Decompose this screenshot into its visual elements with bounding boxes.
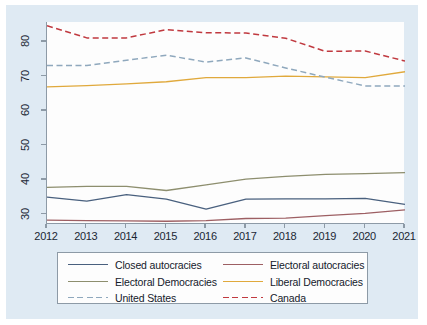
chart-legend: Closed autocraciesElectoral autocraciesE… <box>57 252 368 304</box>
legend-swatch-icon <box>223 293 263 303</box>
x-tick-mark <box>85 224 86 228</box>
legend-line <box>68 281 108 282</box>
chart-figure: 304050607080 201220132014201520162017201… <box>0 0 427 325</box>
y-tick-label: 50 <box>19 134 31 156</box>
series-line-closed-autocracies <box>47 195 405 210</box>
legend-item-closed-autocracies[interactable]: Closed autocracies <box>68 257 202 272</box>
series-line-electoral-democracies <box>47 173 405 191</box>
x-tick-label: 2020 <box>347 230 381 242</box>
y-tick-label: 60 <box>19 99 31 121</box>
x-tick-mark <box>403 224 404 228</box>
x-tick-label: 2015 <box>148 230 182 242</box>
legend-line <box>223 297 263 299</box>
series-line-liberal-democracies <box>47 72 405 87</box>
legend-label: Closed autocracies <box>115 259 202 271</box>
legend-swatch-icon <box>223 260 263 270</box>
x-tick-label: 2014 <box>109 230 143 242</box>
x-tick-label: 2017 <box>228 230 262 242</box>
x-tick-label: 2018 <box>268 230 302 242</box>
x-tick-label: 2016 <box>188 230 222 242</box>
plot-area <box>46 22 404 224</box>
x-tick-mark <box>204 224 205 228</box>
legend-swatch-icon <box>68 260 108 270</box>
x-tick-label: 2019 <box>307 230 341 242</box>
series-line-canada <box>47 26 405 61</box>
legend-item-canada[interactable]: Canada <box>223 290 306 305</box>
series-line-electoral-autocracies <box>47 210 405 221</box>
legend-line <box>223 281 263 282</box>
x-tick-mark <box>125 224 126 228</box>
legend-item-electoral-autocracies[interactable]: Electoral autocracies <box>223 257 364 272</box>
y-tick-label: 80 <box>19 30 31 52</box>
legend-line <box>223 264 263 265</box>
legend-label: Liberal Democracies <box>270 276 363 288</box>
legend-item-liberal-democracies[interactable]: Liberal Democracies <box>223 274 363 289</box>
y-tick-label: 70 <box>19 65 31 87</box>
legend-label: Canada <box>270 292 306 304</box>
series-lines <box>47 22 405 224</box>
x-tick-mark <box>364 224 365 228</box>
x-tick-label: 2012 <box>29 230 63 242</box>
legend-item-united-states[interactable]: United States <box>68 290 176 305</box>
y-tick-label: 40 <box>19 168 31 190</box>
y-tick-label: 30 <box>19 203 31 225</box>
legend-label: Electoral autocracies <box>270 259 364 271</box>
legend-item-electoral-democracies[interactable]: Electoral Democracies <box>68 274 217 289</box>
legend-label: Electoral Democracies <box>115 276 217 288</box>
legend-swatch-icon <box>68 277 108 287</box>
x-tick-mark <box>45 224 46 228</box>
x-tick-mark <box>284 224 285 228</box>
x-tick-mark <box>244 224 245 228</box>
legend-line <box>68 297 108 299</box>
legend-label: United States <box>115 292 176 304</box>
legend-line <box>68 264 108 265</box>
series-line-united-states <box>47 55 405 86</box>
legend-swatch-icon <box>223 277 263 287</box>
legend-swatch-icon <box>68 293 108 303</box>
x-tick-mark <box>324 224 325 228</box>
x-tick-label: 2021 <box>387 230 421 242</box>
x-tick-mark <box>165 224 166 228</box>
x-tick-label: 2013 <box>69 230 103 242</box>
